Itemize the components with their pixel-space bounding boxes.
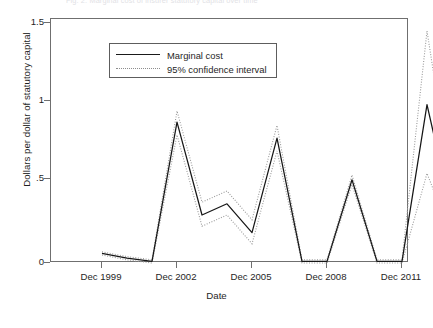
x-tick-label-2002: Dec 2002: [144, 271, 208, 282]
figure-caption-strip: Fig. 2. Marginal cost of insurer statuto…: [0, 0, 433, 11]
x-tick-label-2011: Dec 2011: [369, 271, 433, 282]
chart-legend: Marginal cost 95% confidence interval: [109, 43, 277, 78]
legend-item-confidence-interval: 95% confidence interval: [116, 62, 276, 76]
x-axis-label: Date: [0, 290, 433, 301]
legend-item-marginal-cost: Marginal cost: [116, 48, 276, 62]
marginal-cost-line: [102, 105, 433, 262]
plot-area: Marginal cost 95% confidence interval: [50, 18, 408, 262]
y-tick-label-1: 1: [16, 95, 44, 105]
legend-solid-line-icon: [116, 51, 160, 59]
legend-label-confidence-interval: 95% confidence interval: [167, 64, 267, 75]
x-tick-label-2008: Dec 2008: [294, 271, 358, 282]
y-tick-label-0: 0: [16, 257, 44, 267]
y-tick-label-0_5: .5: [16, 173, 44, 183]
ci-lower-line: [102, 135, 433, 263]
figure-container: Fig. 2. Marginal cost of insurer statuto…: [0, 0, 433, 328]
y-axis-label: Dollars per dollar of statutory capital: [21, 0, 32, 220]
legend-dotted-line-icon: [116, 65, 160, 73]
x-tick-label-2005: Dec 2005: [219, 271, 283, 282]
legend-label-marginal-cost: Marginal cost: [167, 50, 223, 61]
x-tick-label-1999: Dec 1999: [69, 271, 133, 282]
y-tick-mark-0: [44, 262, 50, 263]
figure-caption-text: Fig. 2. Marginal cost of insurer statuto…: [66, 0, 258, 5]
y-tick-label-1_5: 1.5: [16, 17, 44, 27]
